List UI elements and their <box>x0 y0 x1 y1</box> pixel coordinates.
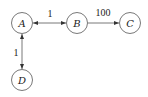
edge-a-b: 1 <box>33 8 66 23</box>
edge-a-b-weight: 1 <box>48 8 53 19</box>
node-c: C <box>120 13 141 34</box>
edge-a-d-weight: 1 <box>14 47 19 58</box>
node-a: A <box>12 13 33 34</box>
node-d: D <box>12 70 33 91</box>
node-d-label: D <box>17 75 26 86</box>
edge-b-c: 100 <box>88 7 119 23</box>
edge-b-c-weight: 100 <box>96 7 111 18</box>
edge-a-d: 1 <box>14 34 23 69</box>
graph-diagram: 1 100 1 A B C D <box>0 0 148 97</box>
node-c-label: C <box>126 18 134 29</box>
node-b-label: B <box>72 18 80 29</box>
node-b: B <box>67 13 88 34</box>
node-a-label: A <box>17 18 25 29</box>
